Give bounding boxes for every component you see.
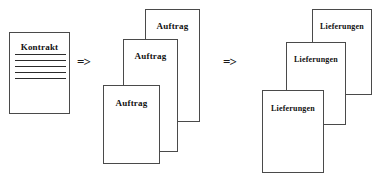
auftrag-title: Auftrag	[104, 98, 159, 109]
arrow-kontrakt-to-auftrag-icon: =>	[77, 55, 90, 68]
auftrag-document-front: Auftrag	[103, 85, 160, 164]
kontrakt-text-line	[15, 78, 66, 79]
process-flow-diagram: Kontrakt => Auftrag Auftrag Auftrag => L…	[0, 0, 377, 186]
kontrakt-title: Kontrakt	[10, 42, 69, 53]
kontrakt-document: Kontrakt	[9, 32, 70, 114]
arrow-auftrag-to-lieferungen-icon: =>	[223, 55, 236, 68]
auftrag-title: Auftrag	[124, 51, 177, 62]
kontrakt-text-line	[15, 72, 66, 73]
kontrakt-title-underline	[15, 54, 66, 55]
kontrakt-text-line	[15, 66, 66, 67]
auftrag-title: Auftrag	[146, 21, 199, 32]
lieferungen-document-front: Lieferungen	[262, 90, 324, 173]
lieferungen-title: Lieferungen	[313, 21, 371, 32]
lieferungen-title: Lieferungen	[287, 54, 345, 65]
lieferungen-title: Lieferungen	[263, 103, 323, 114]
kontrakt-text-line	[15, 60, 66, 61]
